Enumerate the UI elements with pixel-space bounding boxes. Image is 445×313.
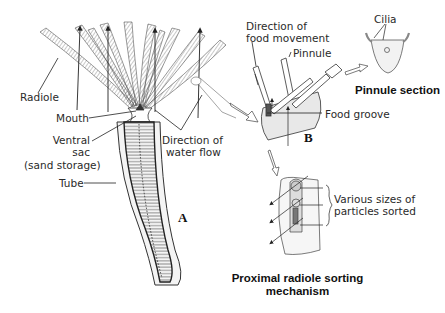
label-food-movement-1: Direction of: [246, 20, 307, 33]
sorting-title-2: mechanism: [225, 285, 370, 298]
panel-letter-b: B: [304, 130, 313, 146]
label-radiole: Radiole: [20, 91, 59, 104]
label-food-groove: Food groove: [325, 108, 390, 121]
label-mouth: Mouth: [55, 112, 89, 125]
label-tube: Tube: [59, 177, 84, 190]
sorting-title-1: Proximal radiole sorting: [225, 272, 370, 285]
radiole-segment: [253, 58, 342, 140]
label-ventral-sac-3: (sand storage): [24, 159, 101, 172]
label-water-flow-1: Direction of: [162, 134, 223, 147]
pinnule-section-drawing: [366, 24, 409, 73]
label-water-flow-2: water flow: [166, 146, 221, 159]
pinnule-section-title: Pinnule section: [355, 84, 440, 97]
label-ventral-sac-1: Ventral: [40, 134, 90, 147]
label-food-movement-2: food movement: [246, 32, 329, 45]
sorting-mechanism-drawing: [271, 176, 332, 255]
panel-letter-a: A: [178, 210, 187, 226]
label-particles-2: particles sorted: [334, 205, 416, 218]
label-particles-1: Various sizes of: [334, 193, 415, 206]
label-cilia: Cilia: [374, 13, 397, 26]
label-pinnule: Pinnule: [293, 47, 331, 60]
label-ventral-sac-2: sac: [40, 146, 90, 159]
